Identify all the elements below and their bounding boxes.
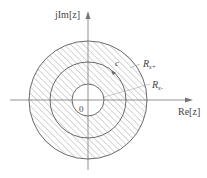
contour-label: c — [115, 58, 119, 68]
z-plane-diagram: jIm[z] Re[z] 0 c Rx+ Rx- — [0, 0, 207, 178]
diagram-canvas: jIm[z] Re[z] 0 c Rx+ Rx- — [0, 0, 207, 178]
imag-axis-label: jIm[z] — [54, 9, 80, 20]
roc-hatched-region — [0, 0, 207, 178]
origin-label: 0 — [79, 104, 84, 114]
real-axis-label: Re[z] — [178, 106, 200, 117]
